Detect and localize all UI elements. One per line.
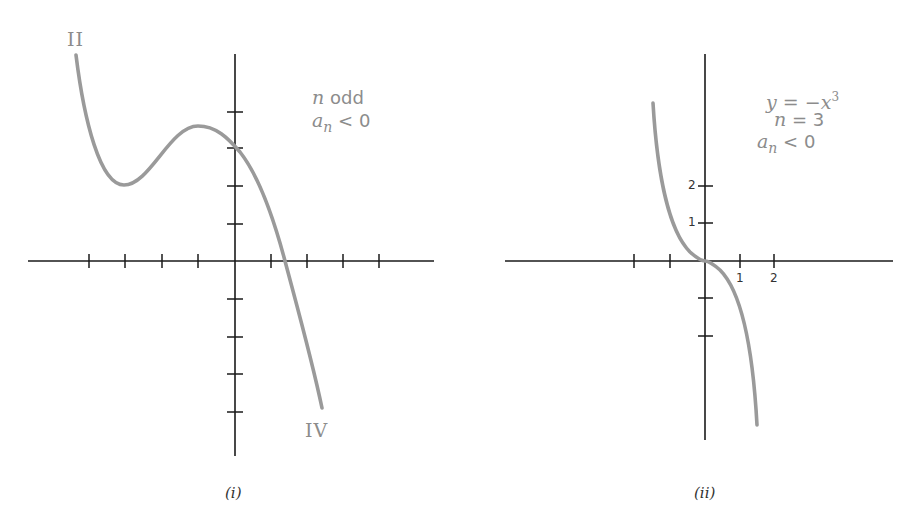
panel-i-note-coefficient: an < 0 — [312, 109, 370, 138]
panel-i-curve — [76, 55, 322, 408]
panel-i-axes — [28, 54, 434, 456]
panel-i-annotation: n odd an < 0 — [312, 86, 370, 138]
panel-ii-degree: n = 3 — [774, 108, 824, 131]
panel-ii-y-tick-label-1: 1 — [688, 215, 696, 229]
panel-ii-x-tick-label-2: 2 — [770, 271, 778, 285]
panel-i-caption: (i) — [225, 484, 242, 502]
panel-i-note-degree: n odd — [312, 86, 370, 109]
figure-canvas — [0, 0, 907, 526]
panel-i-quadrant-label-start: II — [67, 28, 84, 50]
panel-ii-coefficient: an < 0 — [757, 130, 815, 159]
panel-ii-caption: (ii) — [694, 484, 715, 502]
panel-ii-x-tick-label-1: 1 — [736, 271, 744, 285]
panel-i-quadrant-label-end: IV — [305, 419, 328, 441]
panel-ii-y-tick-label-2: 2 — [688, 178, 696, 192]
